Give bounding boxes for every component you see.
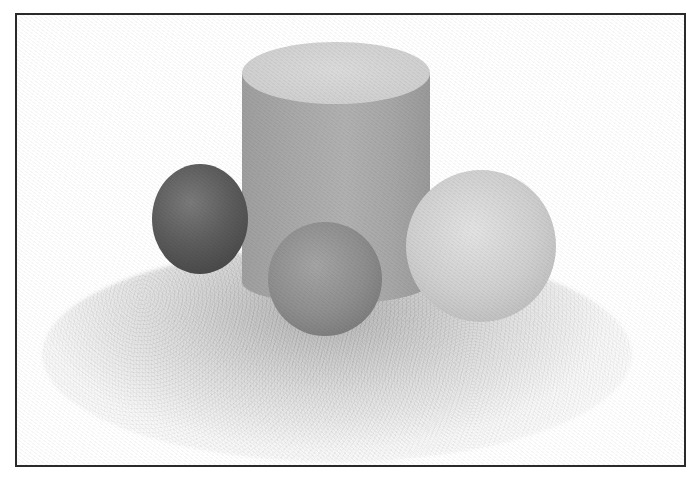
render-scene — [15, 13, 686, 467]
mid-sphere — [268, 222, 382, 336]
cylinder-top — [242, 42, 430, 104]
render-frame — [15, 13, 686, 467]
light-sphere — [406, 170, 556, 322]
dark-sphere — [152, 164, 248, 274]
